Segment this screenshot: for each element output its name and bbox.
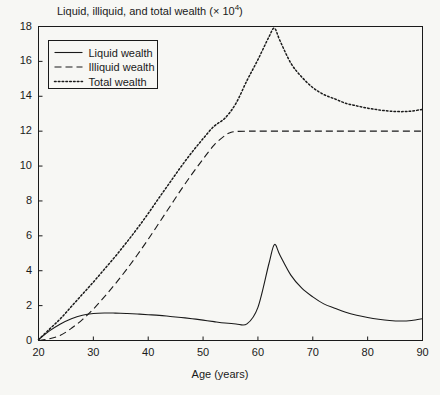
y-tick-14: 14	[2, 89, 32, 101]
wealth-lifecycle-chart: Liquid, illiquid, and total wealth (× 10…	[0, 0, 440, 395]
y-tick-8: 8	[2, 194, 32, 206]
y-tick-6: 6	[2, 229, 32, 241]
chart-legend: Liquid wealthIlliquid wealthTotal wealth	[49, 41, 158, 89]
x-tick-60: 60	[238, 346, 278, 358]
y-tick-10: 10	[2, 159, 32, 171]
plot-canvas: Liquid wealthIlliquid wealthTotal wealth	[0, 0, 440, 395]
x-tick-30: 30	[73, 346, 113, 358]
x-tick-40: 40	[128, 346, 168, 358]
y-tick-18: 18	[2, 20, 32, 32]
y-tick-0: 0	[2, 334, 32, 346]
x-tick-20: 20	[19, 346, 59, 358]
x-axis-label: Age (years)	[0, 368, 440, 380]
y-tick-16: 16	[2, 54, 32, 66]
x-tick-90: 90	[403, 346, 440, 358]
x-tick-50: 50	[183, 346, 223, 358]
y-tick-12: 12	[2, 124, 32, 136]
y-tick-2: 2	[2, 299, 32, 311]
chart-title-tail: )	[239, 5, 243, 17]
y-tick-4: 4	[2, 264, 32, 276]
legend-label-total-wealth: Total wealth	[89, 76, 147, 88]
chart-title: Liquid, illiquid, and total wealth (× 10…	[57, 4, 243, 18]
chart-title-main: Liquid, illiquid, and total wealth (× 10	[57, 5, 235, 17]
x-tick-70: 70	[293, 346, 333, 358]
legend-label-illiquid-wealth: Illiquid wealth	[89, 61, 155, 73]
legend-label-liquid-wealth: Liquid wealth	[89, 47, 153, 59]
x-tick-80: 80	[348, 346, 388, 358]
